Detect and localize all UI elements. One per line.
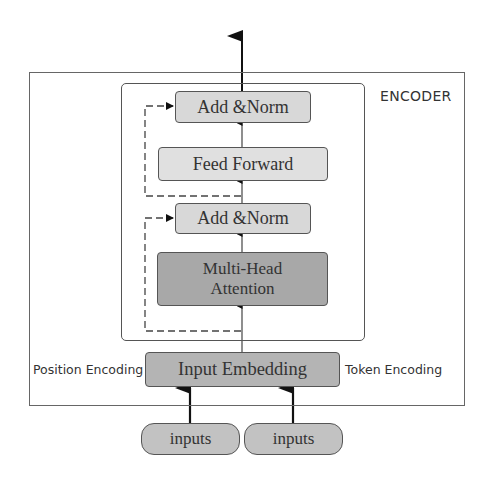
add-norm-top-block: Add &Norm (175, 91, 311, 123)
input-pill-1: inputs (141, 423, 240, 455)
encoder-title: ENCODER (380, 88, 452, 104)
input-pill-2: inputs (244, 423, 343, 455)
position-encoding-label: Position Encoding (33, 362, 143, 377)
input-embedding-block: Input Embedding (145, 352, 340, 387)
token-encoding-label: Token Encoding (345, 362, 442, 377)
add-norm-bottom-block: Add &Norm (175, 203, 311, 234)
feed-forward-block: Feed Forward (158, 147, 328, 181)
multi-head-attention-block: Multi-Head Attention (157, 252, 328, 306)
